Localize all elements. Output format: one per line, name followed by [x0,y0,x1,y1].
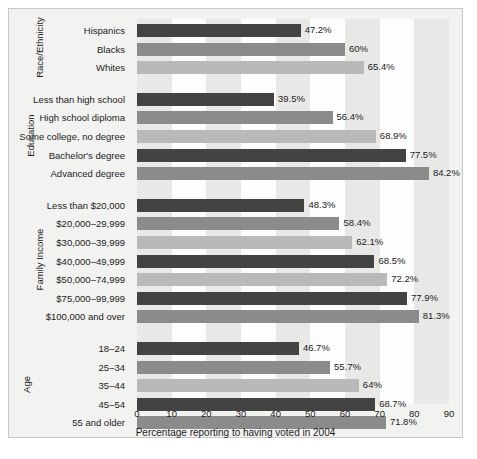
bar-row: 81.3% [137,310,449,323]
bar [137,310,419,323]
bar-value-label: 39.5% [278,92,305,106]
bar-row: 68.5% [137,255,449,268]
chart-figure: Race/EthnicityEducationFamily IncomeAge … [8,8,463,438]
bar-row: 64% [137,379,449,392]
x-axis-title: Percentage reporting to having voted in … [9,427,462,438]
bar-value-label: 48.3% [308,198,335,212]
bar-row: 68.9% [137,130,449,143]
x-tick-label: 70 [374,408,385,419]
x-tick-label: 40 [270,408,281,419]
category-label: $75,000–99,999 [56,292,125,306]
bar [137,342,299,355]
category-label: Advanced degree [51,167,125,181]
bar-rows: 47.2%60%65.4%39.5%56.4%68.9%77.5%84.2%48… [137,19,449,404]
category-label: $20,000–29,999 [56,217,125,231]
category-labels: HispanicsBlacksWhitesLess than high scho… [9,19,133,404]
bar-value-label: 46.7% [303,341,330,355]
bar-value-label: 56.4% [337,110,364,124]
category-label: Blacks [97,43,125,57]
category-label: $50,000–74,999 [56,273,125,287]
bar [137,273,387,286]
bar-value-label: 84.2% [433,166,460,180]
bar-row: 55.7% [137,361,449,374]
bar [137,24,301,37]
bar-row: 39.5% [137,93,449,106]
bar [137,361,330,374]
bar-value-label: 55.7% [334,360,361,374]
bar-row: 58.4% [137,217,449,230]
bar-value-label: 68.5% [378,254,405,268]
category-label: 35–44 [99,379,125,393]
x-tick-label: 0 [134,408,139,419]
bar-row: 62.1% [137,236,449,249]
category-label: 18–24 [99,342,125,356]
bar-value-label: 64% [363,378,382,392]
x-axis-ticks: 0102030405060708090 [137,408,449,424]
bar [137,167,429,180]
bar [137,111,333,124]
bar [137,130,376,143]
plot-area: 47.2%60%65.4%39.5%56.4%68.9%77.5%84.2%48… [137,19,449,404]
category-label: $40,000–49,999 [56,255,125,269]
x-tick-label: 20 [201,408,212,419]
bar [137,93,274,106]
bar [137,236,352,249]
bar [137,292,407,305]
bar [137,61,364,74]
x-tick-label: 10 [166,408,177,419]
category-label: Whites [96,61,125,75]
bar-value-label: 81.3% [423,309,450,323]
bar-value-label: 65.4% [368,60,395,74]
bar-value-label: 58.4% [343,216,370,230]
bar [137,43,345,56]
category-label: Bachelor's degree [49,149,125,163]
bar-value-label: 60% [349,42,368,56]
x-tick-label: 30 [236,408,247,419]
bar-row: 84.2% [137,167,449,180]
bar [137,149,406,162]
category-label: 45–54 [99,398,125,412]
bar-row: 60% [137,43,449,56]
category-label: Less than $20,000 [47,199,125,213]
bar-row: 77.9% [137,292,449,305]
x-tick-label: 90 [444,408,455,419]
bar-row: 72.2% [137,273,449,286]
bar-value-label: 77.9% [411,291,438,305]
bar-value-label: 68.9% [380,129,407,143]
bar [137,199,304,212]
bar-row: 65.4% [137,61,449,74]
category-label: $30,000–39,999 [56,236,125,250]
category-label: Some college, no degree [19,130,125,144]
bar-row: 48.3% [137,199,449,212]
x-tick-label: 80 [409,408,420,419]
bar [137,217,339,230]
bar-row: 46.7% [137,342,449,355]
bar-row: 47.2% [137,24,449,37]
bar-value-label: 47.2% [305,23,332,37]
x-tick-label: 60 [340,408,351,419]
bar [137,255,374,268]
category-label: Hispanics [84,24,125,38]
category-label: $100,000 and over [46,310,125,324]
bar-row: 56.4% [137,111,449,124]
bar-value-label: 72.2% [391,272,418,286]
category-label: Less than high school [33,93,125,107]
category-label: High school diploma [39,111,125,125]
bar [137,379,359,392]
category-label: 25–34 [99,361,125,375]
bar-value-label: 62.1% [356,235,383,249]
bar-row: 77.5% [137,149,449,162]
x-tick-label: 50 [305,408,316,419]
bar-value-label: 77.5% [410,148,437,162]
